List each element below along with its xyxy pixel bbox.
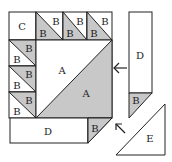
piece-a-square: A A [36, 40, 112, 118]
label-b: B [39, 28, 46, 39]
label-b: B [13, 80, 20, 91]
top-row-b-units: B B B B B B [36, 12, 112, 40]
label-b: B [25, 43, 32, 54]
label-b: B [90, 28, 97, 39]
label-d-right: D [136, 50, 144, 61]
left-column-b-units: B B B B B B [9, 40, 36, 118]
b-unit-left-1: B B [9, 40, 36, 66]
label-d-bottom: D [44, 126, 52, 137]
b-unit-top-2: B B [63, 12, 87, 40]
label-b: B [101, 16, 108, 27]
label-b: B [132, 95, 139, 106]
piece-e-triangle: E [116, 104, 165, 155]
arrow-left-icon [114, 63, 127, 73]
right-strip: D B [129, 12, 152, 118]
label-b: B [25, 95, 32, 106]
b-unit-top-3: B B [87, 12, 112, 40]
b-unit-left-3: B B [9, 92, 36, 118]
label-a-shaded: A [81, 88, 90, 99]
label-e: E [146, 133, 153, 144]
label-b: B [66, 28, 73, 39]
label-b: B [13, 54, 20, 65]
arrow-up-left-icon [116, 124, 125, 133]
label-a-white: A [57, 65, 66, 76]
quilt-block-diagram: C B B B B B B B B [0, 0, 172, 162]
label-b: B [76, 16, 83, 27]
label-b: B [13, 106, 20, 117]
label-b: B [52, 16, 59, 27]
label-c: C [18, 21, 26, 32]
bottom-strip: D B [10, 118, 112, 143]
label-b: B [91, 123, 98, 134]
b-unit-top-1: B B [36, 12, 63, 40]
b-unit-left-2: B B [9, 66, 36, 92]
piece-c-corner: C [9, 12, 36, 40]
label-b: B [25, 69, 32, 80]
